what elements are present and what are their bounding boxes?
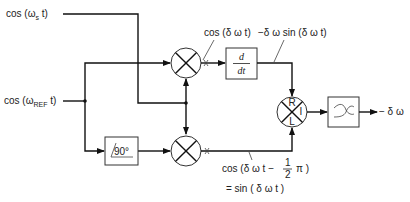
svg-text:dt: dt bbox=[238, 65, 246, 76]
derivative-output bbox=[257, 63, 292, 96]
phase-shift-block: 90° bbox=[105, 137, 138, 165]
fraction-numerator: 1 bbox=[285, 157, 291, 168]
leader-line bbox=[203, 40, 214, 60]
r-port-label: R bbox=[288, 97, 295, 108]
i-port-label: I bbox=[300, 106, 303, 117]
bottom-mixer-output bbox=[201, 128, 292, 154]
top-mixer-output-label: cos (δ ω t) bbox=[204, 27, 251, 38]
bottom-mixer-output-equiv: = sin ( δ ω t ) bbox=[226, 183, 284, 194]
low-pass-filter-block bbox=[328, 97, 359, 127]
fraction-denominator: 2 bbox=[285, 169, 291, 180]
phase-shift-label: 90° bbox=[114, 146, 129, 157]
ril-mixer: R I L bbox=[277, 97, 307, 127]
signal-path bbox=[63, 14, 188, 134]
reference-input-label: cos (ωREF t) bbox=[4, 95, 56, 108]
leader-line bbox=[249, 152, 252, 160]
bottom-mixer-output-label: cos (δ ω t − bbox=[222, 163, 274, 174]
leader-line bbox=[274, 40, 284, 62]
top-mixer bbox=[171, 48, 201, 78]
output-label: − δ ω bbox=[379, 106, 404, 117]
signal-input-label: cos (ωs t) bbox=[6, 8, 48, 21]
block-diagram: cos (ωs t) cos (ωREF t) 90° cos (δ ω bbox=[0, 0, 410, 202]
bottom-mixer bbox=[171, 136, 201, 166]
differentiator-block: d dt bbox=[226, 48, 257, 79]
bottom-mixer-output-label-tail: π ) bbox=[296, 163, 309, 174]
l-port-label: L bbox=[289, 116, 295, 127]
derivative-output-label: −δ ω sin (δ ω t) bbox=[258, 27, 327, 38]
top-mixer-output bbox=[201, 60, 225, 66]
